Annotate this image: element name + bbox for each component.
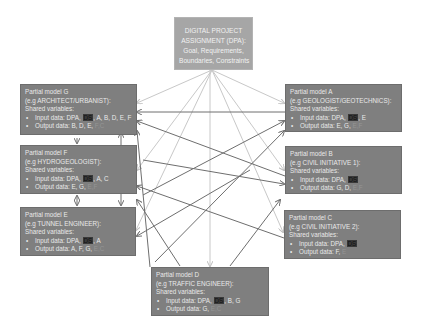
shared-label: Shared variables: [156,288,264,297]
input-data: Input data: DPA, DS, E [290,114,397,123]
ds-tag: DS [83,175,94,182]
model-role: (e.g GEOLOGIST/GEOTECHNICS): [290,97,397,106]
partial-model-d: Partial model D (e.g TRAFFIC ENGINEER): … [151,267,269,316]
output-data: Output data: B, D, E, F,C [25,122,132,131]
model-title: Partial model C [289,214,396,223]
shared-label: Shared variables: [289,231,396,240]
ds-tag: DS [347,240,358,247]
shared-label: Shared variables: [25,166,132,175]
model-title: Partial model E [25,211,131,220]
model-title: Partial model A [290,88,397,97]
input-data: Input data: DPA, DS, A, C [25,175,132,184]
output-data: Output data: E, G, E,F [290,122,397,131]
partial-model-g: Partial model G (e.g ARCHITECT/URBANIST)… [20,84,137,135]
output-data: Output data: A, F, G, E,C [25,245,131,254]
output-data: Output data: G, D, E,F [290,184,397,193]
partial-model-a: Partial model A (e.g GEOLOGIST/GEOTECHNI… [285,84,402,132]
shared-label: Shared variables: [25,105,132,114]
input-data: Input data: DPA, DS [290,176,397,185]
dpa-line-2: ASSIGNMENT (DPA): [179,36,248,46]
model-title: Partial model B [290,150,397,159]
output-data: Output data: F, E [289,248,396,257]
input-data: Input data: DPA, DS [289,240,396,249]
shared-label: Shared variables: [25,228,131,237]
ds-tag: DS [214,297,225,304]
partial-model-b: Partial model B (e.g CIVIL INITIATIVE 1)… [285,146,402,194]
model-role: (e.g CIVIL INITIATIVE 2): [289,223,396,232]
output-data: Output data: G, E,C [156,305,264,314]
input-data: Input data: DPA, DS, A [25,237,131,246]
ds-tag: DS [348,114,359,121]
model-role: (e.g ARCHITECT/URBANIST): [25,97,132,106]
dpa-line-3: Goal, Requirements, [179,46,248,56]
partial-model-c: Partial model C (e.g CIVIL INITIATIVE 2)… [284,210,401,259]
model-title: Partial model D [156,271,264,280]
dpa-line-4: Boundaries, Constraints [179,56,248,66]
ds-tag: DS [83,114,94,121]
model-title: Partial model G [25,88,132,97]
model-role: (e.g TRAFFIC ENGINEER): [156,280,264,289]
shared-label: Shared variables: [290,167,397,176]
partial-model-e: Partial model E (e.g TUNNEL ENGINEER): S… [20,207,136,256]
model-role: (e.g CIVIL INITIATIVE 1): [290,159,397,168]
dpa-box: DIGITAL PROJECT ASSIGNMENT (DPA): Goal, … [174,17,253,70]
input-data: Input data: DPA, DS, A, B, D, E, F [25,114,132,123]
shared-label: Shared variables: [290,105,397,114]
model-title: Partial model F [25,149,132,158]
output-data: Output data: E, G, E,F [25,183,132,192]
partial-model-f: Partial model F (e.g HYDROGEOLOGIST): Sh… [20,145,137,194]
model-role: (e.g TUNNEL ENGINEER): [25,220,131,229]
ds-tag: DS [83,237,94,244]
ds-tag: DS [348,176,359,183]
dpa-line-1: DIGITAL PROJECT [179,26,248,36]
input-data: Input data: DPA, DS, B, G [156,297,264,306]
model-role: (e.g HYDROGEOLOGIST): [25,158,132,167]
